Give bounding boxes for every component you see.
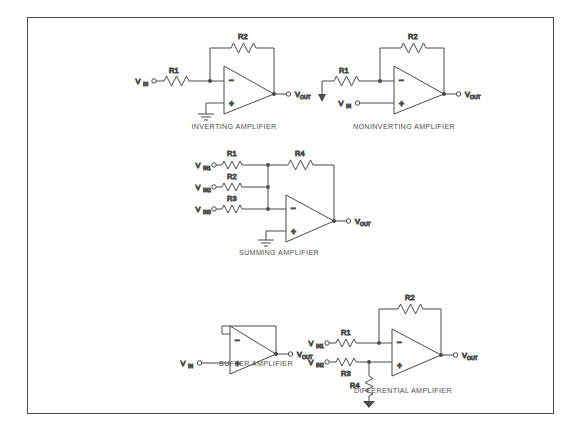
caption-inverting-amplifier: INVERTING AMPLIFIER [144,122,324,131]
input3-label-sub: IN3 [203,209,211,215]
resistor-r2-label: R2 [227,172,237,181]
opamp-noninverting-sign: + [291,227,296,237]
input2-label-sub: IN2 [203,187,211,193]
output-terminal-dot [346,219,350,223]
input1-terminal-dot [212,163,216,167]
output-label-sub: OUT [470,94,481,100]
resistor-r2-label: R2 [405,293,415,302]
resistor-r1-symbol [164,76,189,86]
input1-terminal-dot [325,341,329,345]
resistor-r3-symbol [222,205,242,213]
input1-label-v: V [308,339,313,348]
figure-border: V IN R1 R2 − + V OUT INVERTING AMPLIFIER [27,17,554,414]
resistor-r2-label: R2 [408,32,418,41]
input2-label-sub: IN2 [316,362,324,368]
caption-differential-amplifier: DIFFERENTIAL AMPLIFIER [308,386,498,395]
input-label-v: V [135,77,140,86]
input1-label-sub: IN1 [203,165,211,171]
resistor-r2-symbol [398,304,423,314]
input-label-v: V [338,99,343,108]
resistor-r3-label: R3 [227,194,237,203]
input3-label-v: V [195,205,200,214]
input2-label-v: V [308,358,313,367]
output-terminal-dot [456,92,460,96]
resistor-r3-label: R3 [341,369,351,378]
opamp-inverting-sign: − [399,75,404,85]
inverting-amplifier-schematic: V IN R1 R2 − + V OUT [128,26,308,126]
output-label-sub: OUT [360,221,371,227]
input2-terminal-dot [212,185,216,189]
circuit-inverting-amplifier: V IN R1 R2 − + V OUT [128,26,308,126]
resistor-r2-symbol [401,43,426,53]
ground-arrow-icon [363,401,375,408]
resistor-r1-label: R1 [169,66,179,75]
resistor-r1-symbol [336,339,356,347]
resistor-r1-label: R1 [339,66,349,75]
output-terminal-dot [453,353,457,357]
opamp-inverting-sign: − [229,75,234,85]
resistor-r2-label: R2 [238,32,248,41]
resistor-r1-symbol [222,161,242,169]
input-terminal-dot [152,79,156,83]
opamp-inverting-sign: − [291,203,296,213]
summing-junction-2 [266,185,270,189]
input1-label-v: V [195,161,200,170]
noninverting-amplifier-schematic: V IN R1 R2 − + V OUT [298,26,478,126]
resistor-r3-symbol [336,358,356,366]
resistor-r2-symbol [222,183,242,191]
resistor-r4-symbol [288,160,313,170]
input3-terminal-dot [212,207,216,211]
resistor-r2-symbol [231,43,256,53]
opamp-noninverting-sign: + [399,99,404,109]
output-label-sub: OUT [467,355,478,361]
circuit-noninverting-amplifier: V IN R1 R2 − + V OUT [298,26,478,126]
caption-summing-amplifier: SUMMING AMPLIFIER [194,248,364,257]
opamp-noninverting-sign: + [397,361,402,371]
resistor-r1-label: R1 [227,149,237,158]
input1-label-sub: IN1 [316,343,324,349]
output-terminal-dot [286,92,290,96]
figure-page: V IN R1 R2 − + V OUT INVERTING AMPLIFIER [0,0,582,432]
resistor-r1-label: R1 [341,328,351,337]
resistor-r4-label: R4 [295,149,305,158]
input2-label-v: V [195,183,200,192]
opamp-inverting-sign: − [235,335,240,345]
input-label-sub: IN [143,81,148,87]
opamp-noninverting-sign: + [229,99,234,109]
input2-terminal-dot [325,360,329,364]
circuit-summing-amplifier: V IN1 V IN2 V IN3 R1 R2 R3 R4 − + V OUT [176,143,376,253]
input-label-sub: IN [346,103,351,109]
ground-arrow-icon [318,94,326,102]
input-terminal-dot [355,101,359,105]
opamp-inverting-sign: − [397,337,402,347]
summing-amplifier-schematic: V IN1 V IN2 V IN3 R1 R2 R3 R4 − + V OUT [176,143,376,253]
caption-noninverting-amplifier: NONINVERTING AMPLIFIER [314,122,494,131]
resistor-r1-symbol [334,76,359,86]
